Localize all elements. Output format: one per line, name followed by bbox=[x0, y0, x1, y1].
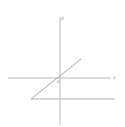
coordinate-diagram: y x 0 bbox=[0, 0, 125, 127]
diagonal-line bbox=[31, 59, 81, 99]
x-axis-label: x bbox=[113, 74, 116, 80]
y-axis-label: y bbox=[60, 14, 64, 21]
